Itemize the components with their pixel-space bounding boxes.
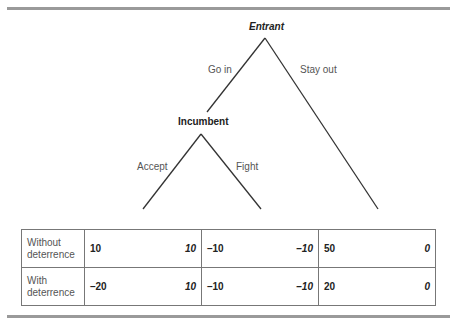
row-header-line: deterrence	[27, 287, 75, 298]
entrant-payoff: 10	[90, 243, 101, 254]
entrant-payoff: 20	[324, 281, 335, 292]
incumbent-payoff: –10	[296, 243, 313, 254]
payoff-cell: –10–10	[202, 268, 319, 306]
incumbent-payoff: –10	[296, 281, 313, 292]
payoff-cell: –10–10	[202, 230, 319, 268]
entrant-payoff: –10	[207, 243, 224, 254]
incumbent-payoff: 10	[185, 243, 196, 254]
incumbent-payoff: 10	[185, 281, 196, 292]
branch-stay-out-label: Stay out	[300, 64, 337, 75]
payoff-table: Withoutdeterrence 1010 –10–10 500 Withde…	[21, 229, 436, 306]
incumbent-payoff: 0	[424, 243, 430, 254]
row-header-line: deterrence	[27, 249, 75, 260]
entrant-payoff: –10	[207, 281, 224, 292]
branch-accept-label: Accept	[137, 161, 168, 172]
incumbent-node-label: Incumbent	[178, 116, 229, 127]
payoff-cell: 500	[319, 230, 436, 268]
branch-fight-label: Fight	[236, 161, 258, 172]
payoff-cell: 1010	[85, 230, 202, 268]
row-header: Withoutdeterrence	[22, 230, 85, 268]
branch-go-in-label: Go in	[208, 64, 232, 75]
table-row: Withoutdeterrence 1010 –10–10 500	[22, 230, 436, 268]
entrant-node-label: Entrant	[249, 21, 284, 32]
payoff-cell: 200	[319, 268, 436, 306]
row-header-line: With	[27, 275, 47, 286]
entrant-payoff: 50	[324, 243, 335, 254]
payoff-cell: –2010	[85, 268, 202, 306]
bottom-rule	[7, 315, 450, 318]
incumbent-payoff: 0	[424, 281, 430, 292]
row-header-line: Without	[27, 237, 61, 248]
row-header: Withdeterrence	[22, 268, 85, 306]
entrant-payoff: –20	[90, 281, 107, 292]
table-row: Withdeterrence –2010 –10–10 200	[22, 268, 436, 306]
